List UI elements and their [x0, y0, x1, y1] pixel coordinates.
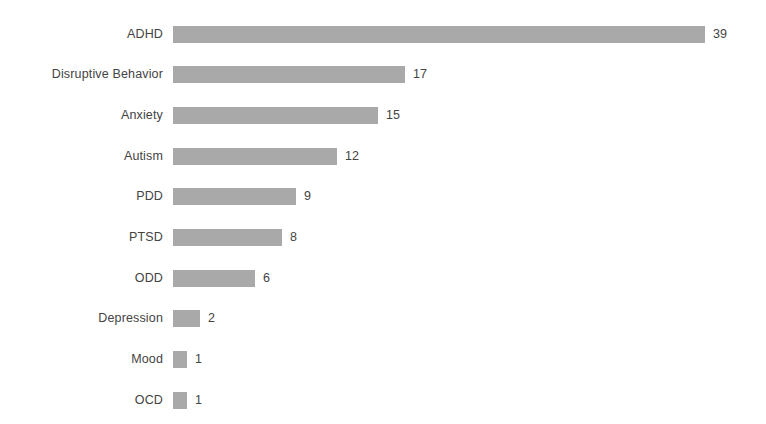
bar-row: ODD6	[0, 270, 766, 287]
category-label: Autism	[0, 148, 163, 165]
category-label: Mood	[0, 351, 163, 368]
value-label: 8	[290, 229, 297, 246]
value-label: 15	[386, 107, 400, 124]
bar	[173, 270, 255, 287]
bar-track	[173, 107, 378, 124]
bar	[173, 310, 200, 327]
bar-track	[173, 148, 337, 165]
bar	[173, 148, 337, 165]
value-label: 1	[195, 351, 202, 368]
bar	[173, 66, 405, 83]
category-label: Depression	[0, 310, 163, 327]
bar-row: Mood1	[0, 351, 766, 368]
category-label: OCD	[0, 392, 163, 409]
bar-track	[173, 66, 405, 83]
bar-row: PDD9	[0, 188, 766, 205]
bar-track	[173, 392, 187, 409]
bar	[173, 392, 187, 409]
bar-track	[173, 351, 187, 368]
category-label: PTSD	[0, 229, 163, 246]
bar	[173, 188, 296, 205]
bar	[173, 351, 187, 368]
value-label: 17	[413, 66, 427, 83]
category-label: PDD	[0, 188, 163, 205]
bar	[173, 107, 378, 124]
bar-track	[173, 270, 255, 287]
plot-area: ADHD39Disruptive Behavior17Anxiety15Auti…	[0, 0, 766, 424]
bar-row: OCD1	[0, 392, 766, 409]
bar-row: PTSD8	[0, 229, 766, 246]
bar	[173, 229, 282, 246]
bar-track	[173, 229, 282, 246]
bar-row: Depression2	[0, 310, 766, 327]
category-label: Disruptive Behavior	[0, 66, 163, 83]
value-label: 39	[713, 26, 727, 43]
category-label: ODD	[0, 270, 163, 287]
category-label: Anxiety	[0, 107, 163, 124]
bar-row: Anxiety15	[0, 107, 766, 124]
bar-row: Disruptive Behavior17	[0, 66, 766, 83]
value-label: 6	[263, 270, 270, 287]
bar-track	[173, 26, 705, 43]
bar-row: Autism12	[0, 148, 766, 165]
category-label: ADHD	[0, 26, 163, 43]
bar-track	[173, 188, 296, 205]
bar-track	[173, 310, 200, 327]
value-label: 9	[304, 188, 311, 205]
bar	[173, 26, 705, 43]
value-label: 12	[345, 148, 359, 165]
value-label: 2	[208, 310, 215, 327]
bar-row: ADHD39	[0, 26, 766, 43]
value-label: 1	[195, 392, 202, 409]
bar-chart: ADHD39Disruptive Behavior17Anxiety15Auti…	[0, 0, 766, 424]
